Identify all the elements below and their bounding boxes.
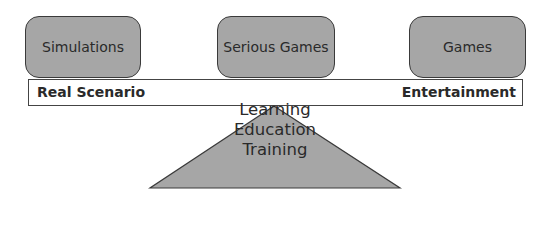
education-label: Education: [200, 120, 350, 140]
training-label: Training: [200, 140, 350, 160]
fulcrum-text: Learning Education Training: [200, 100, 350, 160]
learning-label: Learning: [200, 100, 350, 120]
